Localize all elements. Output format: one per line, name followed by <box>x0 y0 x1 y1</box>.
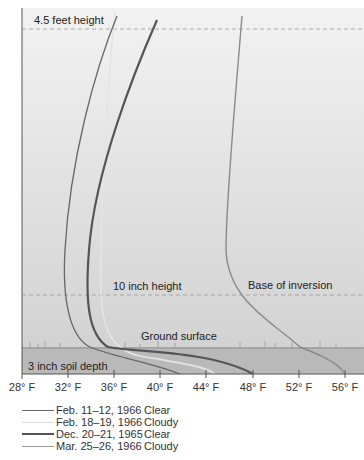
legend-swatch <box>22 433 54 435</box>
x-tick-label: 32° F <box>55 381 82 393</box>
legend-date: Dec. 20–21, 1965 <box>56 428 144 440</box>
legend-item: Dec. 20–21, 1965 Clear <box>22 428 178 440</box>
legend-condition: Cloudy <box>144 416 178 428</box>
x-tick-labels: 28° F 32° F 36° F 40° F 44° F 48° F 52° … <box>9 381 359 393</box>
legend-condition: Clear <box>144 404 170 416</box>
legend-swatch <box>22 422 54 423</box>
legend-item: Feb. 11–12, 1966 Clear <box>22 404 178 416</box>
x-tick-label: 36° F <box>101 381 128 393</box>
x-tick-label: 56° F <box>332 381 359 393</box>
legend-date: Feb. 18–19, 1966 <box>56 416 144 428</box>
legend-condition: Clear <box>144 428 170 440</box>
temperature-profile-chart: 4.5 feet height 10 inch height Base of i… <box>0 0 364 460</box>
legend-swatch <box>22 446 54 447</box>
legend-swatch <box>22 410 54 411</box>
legend-date: Feb. 11–12, 1966 <box>56 404 144 416</box>
x-tick-label: 48° F <box>240 381 267 393</box>
legend-item: Mar. 25–26, 1966 Cloudy <box>22 440 178 452</box>
x-tick-label: 44° F <box>193 381 220 393</box>
legend-item: Feb. 18–19, 1966 Cloudy <box>22 416 178 428</box>
x-tick-label: 40° F <box>147 381 174 393</box>
x-tick-label: 28° F <box>9 381 36 393</box>
label-4-5ft: 4.5 feet height <box>34 14 104 26</box>
legend-condition: Cloudy <box>144 440 178 452</box>
label-ground-surface: Ground surface <box>141 330 217 342</box>
legend-date: Mar. 25–26, 1966 <box>56 440 144 452</box>
label-10in: 10 inch height <box>113 280 182 292</box>
x-tick-label: 52° F <box>286 381 313 393</box>
label-base-inversion: Base of inversion <box>248 279 332 291</box>
legend: Feb. 11–12, 1966 Clear Feb. 18–19, 1966 … <box>22 404 178 452</box>
